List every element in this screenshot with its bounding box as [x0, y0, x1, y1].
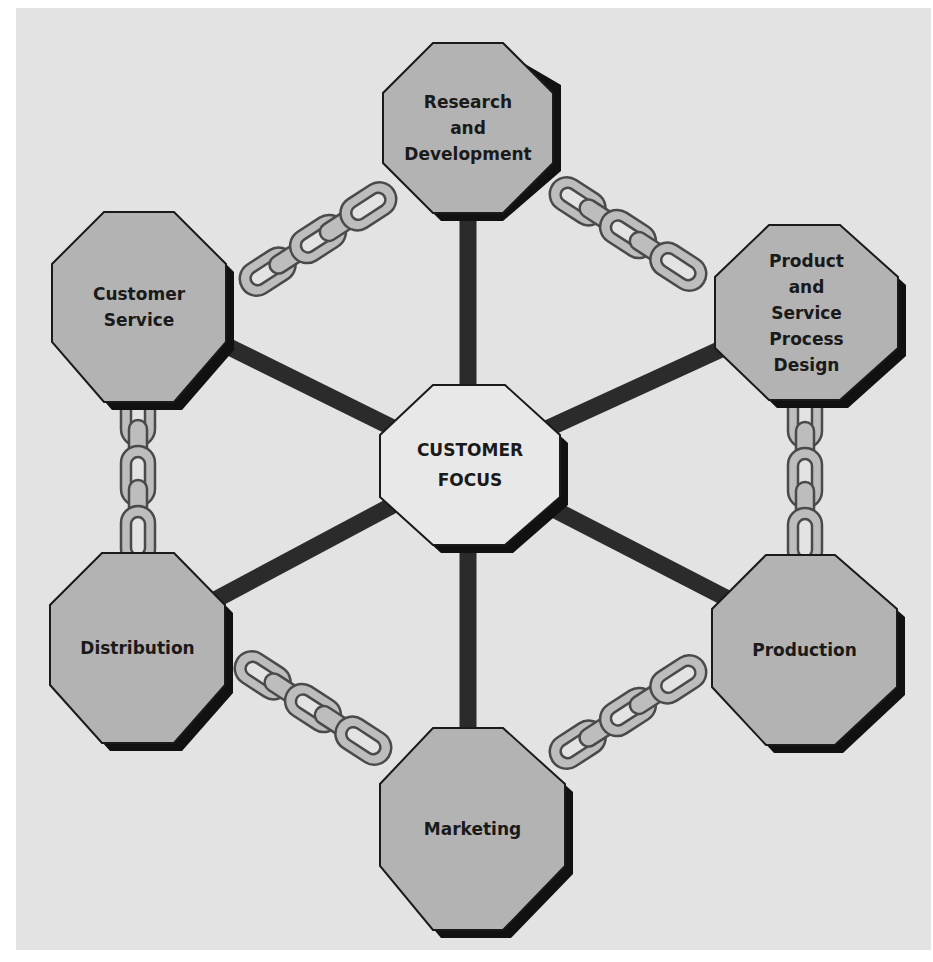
- label-marketing: Marketing: [380, 728, 565, 930]
- label-production: Production: [712, 555, 897, 745]
- label-customer-service: Customer Service: [52, 212, 226, 402]
- label-research-development: Research and Development: [383, 43, 553, 213]
- label-product-service-process-design: Product and Service Process Design: [715, 225, 898, 400]
- label-distribution: Distribution: [50, 553, 225, 743]
- label-customer-focus: CUSTOMER FOCUS: [380, 385, 560, 545]
